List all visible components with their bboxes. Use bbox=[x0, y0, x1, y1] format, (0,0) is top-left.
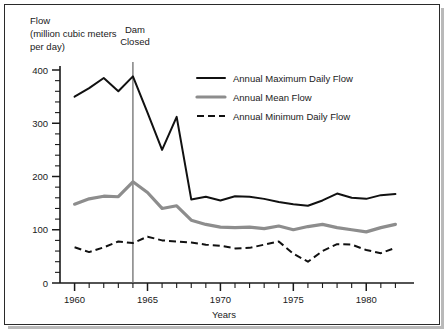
legend-label-1: Annual Mean Flow bbox=[233, 92, 312, 103]
y-tick-label: 0 bbox=[43, 278, 48, 289]
x-tick-label: 1970 bbox=[210, 294, 231, 305]
y-tick-label: 100 bbox=[32, 224, 48, 235]
y-axis-title: Flow (million cubic meters per day) bbox=[30, 15, 117, 52]
flow-line-chart: Flow (million cubic meters per day) 0100… bbox=[0, 0, 448, 333]
x-tick-label: 1975 bbox=[283, 294, 304, 305]
y-axis-title-line-1: Flow bbox=[30, 15, 50, 26]
dam-closed-label-line-1: Dam bbox=[125, 24, 145, 35]
y-axis-title-line-2: (million cubic meters bbox=[30, 28, 117, 39]
y-tick-label: 400 bbox=[32, 65, 48, 76]
legend-label-2: Annual Minimum Daily Flow bbox=[233, 111, 350, 122]
series-line-2 bbox=[75, 237, 396, 262]
y-tick-label: 300 bbox=[32, 118, 48, 129]
figure-container: Flow (million cubic meters per day) 0100… bbox=[0, 0, 448, 333]
legend-label-0: Annual Maximum Daily Flow bbox=[233, 73, 353, 84]
x-axis-title: Years bbox=[212, 309, 236, 320]
y-axis-title-line-3: per day) bbox=[30, 41, 65, 52]
legend-layer: Annual Maximum Daily FlowAnnual Mean Flo… bbox=[197, 73, 353, 122]
x-axis-title-label: Years bbox=[212, 309, 236, 320]
x-tick-label: 1960 bbox=[64, 294, 85, 305]
series-line-1 bbox=[75, 182, 396, 232]
y-tick-label: 200 bbox=[32, 171, 48, 182]
dam-closed-label-line-2: Closed bbox=[120, 36, 150, 47]
axes-layer: 010020030040019601965197019751980 bbox=[32, 65, 414, 306]
series-layer bbox=[75, 76, 396, 261]
annotation-layer: DamClosed bbox=[120, 24, 150, 283]
x-tick-label: 1980 bbox=[356, 294, 377, 305]
x-tick-label: 1965 bbox=[137, 294, 158, 305]
